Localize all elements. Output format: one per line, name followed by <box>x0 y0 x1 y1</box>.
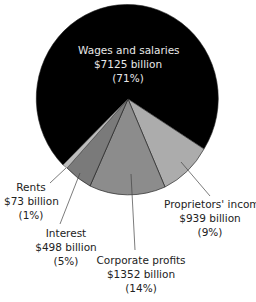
label-proprietors-value: $939 billion <box>164 211 256 225</box>
label-proprietors-name: Proprietors' income <box>164 197 256 211</box>
leader-line-proprietors <box>181 162 210 196</box>
label-rents-value: $73 billion <box>4 194 58 208</box>
label-rents: Rents $73 billion (1%) <box>4 180 58 222</box>
label-interest-name: Interest <box>30 226 102 240</box>
label-corporate-profits: Corporate profits $1352 billion (14%) <box>94 253 188 295</box>
label-rents-name: Rents <box>4 180 58 194</box>
label-wages-value: $7125 billion <box>78 57 178 71</box>
label-interest-value: $498 billion <box>30 240 102 254</box>
label-wages-name: Wages and salaries <box>78 43 178 57</box>
label-wages-and-salaries: Wages and salaries $7125 billion (71%) <box>78 43 178 85</box>
label-interest: Interest $498 billion (5%) <box>30 226 102 268</box>
label-corporate-pct: (14%) <box>94 281 188 295</box>
label-proprietors-income: Proprietors' income $939 billion (9%) <box>164 197 256 239</box>
label-wages-pct: (71%) <box>78 71 178 85</box>
label-corporate-name: Corporate profits <box>94 253 188 267</box>
label-interest-pct: (5%) <box>30 254 102 268</box>
label-corporate-value: $1352 billion <box>94 267 188 281</box>
label-proprietors-pct: (9%) <box>164 225 256 239</box>
label-rents-pct: (1%) <box>4 208 58 222</box>
leader-line-interest <box>60 173 80 224</box>
